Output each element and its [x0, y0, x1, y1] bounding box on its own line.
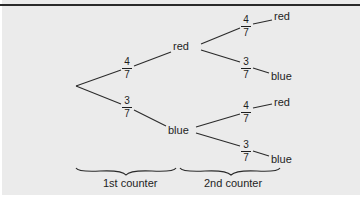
brace-2nd-counter	[180, 168, 280, 175]
fraction-red-blue: 3 7	[241, 57, 251, 80]
branch-root-red-a	[76, 70, 121, 86]
branch-blue-blue-b	[253, 151, 269, 156]
caption-1st-counter: 1st counter	[103, 178, 157, 189]
node-blue: blue	[168, 125, 189, 136]
node-red: red	[173, 41, 189, 52]
branch-root-blue-b	[134, 110, 166, 126]
fraction-root-blue: 3 7	[122, 96, 132, 119]
branch-blue-red-a	[196, 114, 240, 127]
caption-2nd-counter: 2nd counter	[204, 178, 262, 189]
branch-red-red-b	[253, 20, 272, 24]
tree-branches	[0, 0, 360, 198]
branch-red-blue-a	[201, 50, 240, 62]
fraction-blue-blue: 3 7	[241, 140, 251, 163]
fraction-red-red: 4 7	[241, 15, 251, 38]
branch-blue-red-b	[253, 104, 272, 108]
leaf-blue-red: red	[274, 97, 290, 108]
leaf-blue-blue: blue	[271, 154, 292, 165]
branch-red-blue-b	[253, 68, 269, 73]
fraction-blue-red: 4 7	[241, 101, 251, 124]
branch-root-blue-a	[76, 86, 121, 104]
leaf-red-blue: blue	[271, 71, 292, 82]
leaf-red-red: red	[274, 11, 290, 22]
branch-root-red-b	[134, 52, 171, 66]
branch-blue-blue-a	[196, 133, 240, 146]
brace-1st-counter	[76, 168, 176, 175]
fraction-root-red: 4 7	[122, 57, 132, 80]
branch-red-red-a	[201, 28, 240, 44]
